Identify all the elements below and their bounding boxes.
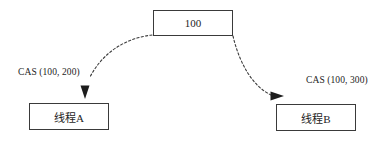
edge-shared-to-thread-a-path [90,35,152,77]
edge-label-cas-thread-a: CAS (100, 200) [18,67,80,77]
edge-shared-to-thread-b-arrowhead [271,92,285,101]
edge-shared-to-thread-b-path [233,36,271,95]
thread-a-box: 线程A [29,103,109,130]
edge-shared-to-thread-a-arrowhead [81,86,90,100]
shared-value-box: 100 [153,10,233,36]
edge-label-cas-thread-b: CAS (100, 300) [306,75,368,85]
thread-b-label: 线程B [301,110,330,126]
diagram-canvas: 100 线程A 线程B CAS (100, 200) CAS (100, 300… [0,0,383,143]
thread-b-box: 线程B [276,104,356,131]
thread-a-label: 线程A [54,109,84,125]
shared-value-label: 100 [185,17,202,29]
